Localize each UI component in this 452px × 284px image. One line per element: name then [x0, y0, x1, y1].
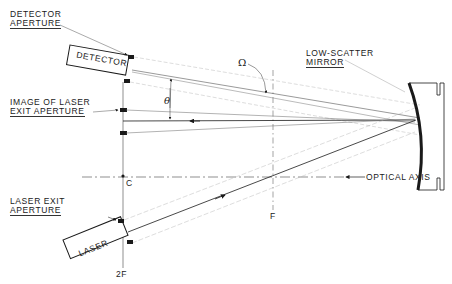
laser-beam-edge [124, 108, 415, 220]
image-aperture-leader [93, 110, 118, 112]
laser-beam-arrow [215, 195, 225, 199]
label-line: EXIT APERTURE [10, 107, 85, 117]
image-aperture-top [120, 108, 127, 112]
detector-aperture-top [128, 55, 134, 59]
label-line: APERTURE [10, 19, 61, 29]
center-point [121, 174, 124, 177]
theta-symbol: θ [164, 95, 170, 106]
laser-beam-edge [132, 132, 415, 243]
omega-symbol: Ω [238, 57, 246, 68]
focal-label: F [270, 212, 276, 221]
optics-diagram [0, 0, 452, 284]
detector-aperture-bottom [124, 79, 130, 83]
laser-aperture-bottom [127, 240, 133, 244]
detector-ray [132, 72, 420, 125]
laser-aperture-leader [108, 217, 116, 220]
label-line: APERTURE [10, 206, 61, 216]
optical-axis-label: OPTICAL AXIS [366, 173, 431, 182]
laser-aperture-top [118, 219, 124, 223]
center-label: C [126, 179, 133, 188]
detector-ray [130, 82, 420, 135]
detector-ray [132, 70, 420, 118]
laser-exit-label: LASER EXIT APERTURE [10, 197, 65, 216]
detector-aperture-label: DETECTOR APERTURE [10, 10, 61, 29]
detector-ray [134, 57, 420, 105]
label-line: MIRROR [306, 58, 344, 68]
two-f-label: 2F [116, 270, 127, 279]
mirror-label: LOW-SCATTER MIRROR [306, 49, 374, 68]
omega-leader [248, 64, 266, 93]
image-aperture-bottom [120, 131, 127, 135]
image-laser-label: IMAGE OF LASER EXIT APERTURE [10, 98, 90, 117]
